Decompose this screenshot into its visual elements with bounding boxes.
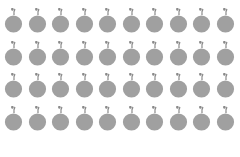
apple-icon	[192, 71, 216, 104]
apple-icon	[4, 6, 28, 39]
apple-icon	[122, 71, 146, 104]
apple-icon	[28, 39, 52, 72]
apple-icon	[169, 104, 193, 137]
apple-icon	[98, 71, 122, 104]
apple-icon	[75, 71, 99, 104]
apple-icon	[216, 71, 240, 104]
apple-icon	[4, 39, 28, 72]
multiplication-caption: 4 × 10 = 40	[0, 138, 240, 157]
apple-icon	[98, 6, 122, 39]
apple-icon	[51, 6, 75, 39]
apple-icon	[216, 39, 240, 72]
apple-icon	[75, 6, 99, 39]
apple-icon	[145, 6, 169, 39]
apple-icon	[145, 71, 169, 104]
apple-icon	[98, 39, 122, 72]
apple-icon	[145, 104, 169, 137]
apple-icon	[192, 6, 216, 39]
apple-icon	[169, 6, 193, 39]
apple-icon	[28, 6, 52, 39]
apple-row	[4, 39, 240, 72]
apple-icon	[216, 6, 240, 39]
apple-icon	[216, 104, 240, 137]
apple-row	[4, 6, 240, 39]
apple-row	[4, 71, 240, 104]
apple-icon	[169, 39, 193, 72]
apple-icon	[192, 39, 216, 72]
apple-icon	[169, 71, 193, 104]
apple-icon	[4, 71, 28, 104]
apple-icon	[28, 71, 52, 104]
apple-icon	[51, 104, 75, 137]
apple-icon	[145, 39, 169, 72]
apple-icon	[122, 6, 146, 39]
apple-row	[4, 104, 240, 137]
apple-grid	[4, 6, 240, 136]
apple-icon	[4, 104, 28, 137]
apple-icon	[192, 104, 216, 137]
apple-icon	[28, 104, 52, 137]
apple-icon	[122, 39, 146, 72]
apple-icon	[98, 104, 122, 137]
apple-icon	[51, 39, 75, 72]
apple-icon	[75, 39, 99, 72]
apple-icon	[51, 71, 75, 104]
apple-icon	[122, 104, 146, 137]
apple-icon	[75, 104, 99, 137]
